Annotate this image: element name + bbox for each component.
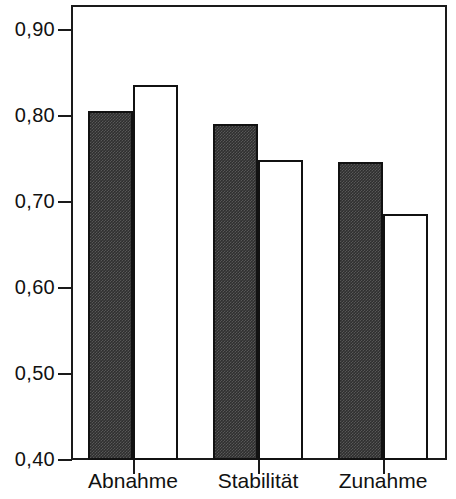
x-tick-label-zunahme: Zunahme	[339, 470, 428, 491]
bar-zunahme-serie1	[338, 162, 383, 460]
x-tick-label-stabilitaet: Stabilität	[218, 470, 299, 491]
bar-abnahme-serie1	[88, 111, 133, 460]
bar-zunahme-serie2	[383, 214, 428, 460]
x-tick-label-abnahme: Abnahme	[88, 470, 178, 491]
bar-abnahme-serie2	[133, 85, 178, 460]
bar-series-container	[0, 0, 456, 460]
bar-stabilitaet-serie1	[213, 124, 258, 460]
bar-chart: 0,90 0,80 0,70 0,60 0,50 0,40 Abnahme St…	[0, 0, 456, 499]
bar-stabilitaet-serie2	[258, 160, 303, 460]
